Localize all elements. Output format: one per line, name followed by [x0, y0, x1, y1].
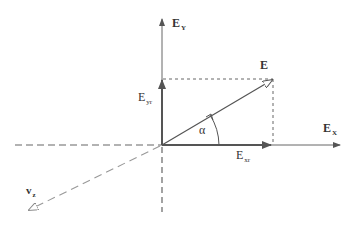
vz-label-sub: z [33, 191, 36, 199]
diagram-canvas: EY EX E Eyr Exr α vz [0, 0, 355, 228]
alpha-angle-arc [210, 115, 219, 145]
ex-label-main: E [323, 121, 331, 135]
alpha-angle-label: α [199, 124, 205, 136]
e-vector-label: E [260, 59, 268, 71]
e-label-main: E [260, 58, 268, 72]
exr-label-sub: xr [244, 156, 250, 164]
eyr-label-sub: yr [146, 98, 152, 106]
ey-label-main: E [172, 16, 180, 30]
vz-label-main: v [26, 184, 32, 196]
vector-diagram [0, 0, 355, 228]
exr-component-label: Exr [236, 149, 250, 161]
vz-axis [29, 146, 160, 210]
ex-label-sub: X [332, 129, 337, 137]
vz-axis-label: vz [26, 185, 36, 196]
eyr-label-main: E [138, 90, 145, 104]
exr-label-main: E [236, 148, 243, 162]
e-vector [162, 80, 272, 145]
ex-axis-label: EX [323, 122, 337, 134]
eyr-component-label: Eyr [138, 91, 152, 103]
ey-axis-label: EY [172, 17, 186, 29]
alpha-label-main: α [199, 123, 205, 137]
ey-label-sub: Y [181, 24, 186, 32]
